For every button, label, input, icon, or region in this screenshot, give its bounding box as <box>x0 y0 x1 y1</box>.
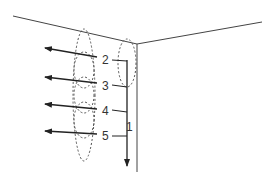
label-5: 5 <box>102 129 109 143</box>
label-1: 1 <box>126 120 133 134</box>
room-corner <box>13 16 262 172</box>
ceiling-right-edge <box>137 22 262 44</box>
ceiling-left-edge <box>13 16 137 44</box>
leader-2 <box>112 60 127 61</box>
large-vortex-ellipse <box>73 29 95 161</box>
label-4: 4 <box>102 104 109 118</box>
flow-arrow-2 <box>45 48 97 57</box>
flow-arrows <box>45 48 97 134</box>
label-3: 3 <box>102 79 109 93</box>
flow-arrow-5 <box>45 131 97 134</box>
leader-4 <box>112 110 127 112</box>
labels: 1 2 3 4 5 <box>102 53 133 143</box>
diagram-canvas: 1 2 3 4 5 <box>0 0 271 180</box>
label-2: 2 <box>102 53 109 67</box>
leader-lines <box>112 60 127 136</box>
